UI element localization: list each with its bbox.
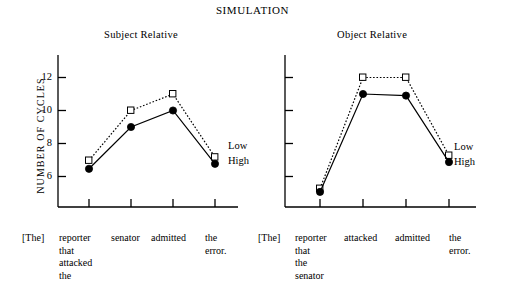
data-point-marker: [127, 123, 134, 130]
data-point-marker: [169, 107, 176, 114]
data-point-marker: [212, 154, 218, 160]
data-point-marker: [128, 107, 134, 113]
series-right-low: [317, 74, 452, 192]
data-point-marker: [360, 74, 366, 80]
series-left-high: [85, 107, 218, 172]
data-point-marker: [170, 91, 176, 97]
data-point-marker: [211, 160, 218, 167]
series-right-high: [316, 90, 452, 195]
axes-left: [58, 55, 238, 207]
data-point-marker: [402, 92, 409, 99]
data-point-marker: [316, 188, 323, 195]
data-point-marker: [445, 159, 452, 166]
plot-svg: [0, 0, 505, 296]
figure-container: SIMULATION Subject Relative Object Relat…: [0, 0, 505, 296]
data-point-marker: [85, 165, 92, 172]
data-point-marker: [403, 74, 409, 80]
data-point-marker: [359, 90, 366, 97]
data-point-marker: [86, 157, 92, 163]
